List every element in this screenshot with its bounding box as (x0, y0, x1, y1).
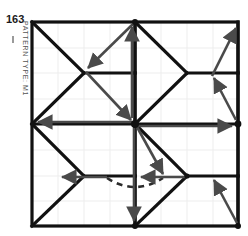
arrow-up-right-corner (212, 28, 236, 76)
page-root: 163 PATTERN TYPE: M1 (0, 0, 248, 236)
diagram-canvas (0, 0, 248, 236)
arrow-down-right-top (86, 72, 131, 120)
